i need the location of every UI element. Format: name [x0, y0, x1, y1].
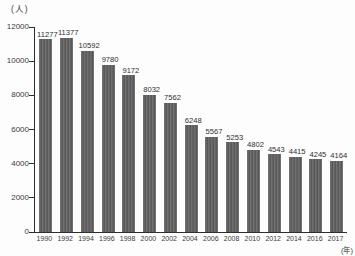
- y-tick-label: 4000: [11, 160, 29, 168]
- x-tick-label: 2010: [242, 235, 263, 242]
- bar-value-label: 7562: [164, 94, 181, 102]
- bar-slot-1998: 9172: [118, 27, 139, 232]
- x-tick-label: 2004: [180, 235, 201, 242]
- bar-value-label: 5567: [206, 128, 223, 136]
- bar-value-label: 4415: [289, 148, 306, 156]
- bar-value-label: 4245: [309, 151, 326, 159]
- bar-value-label: 11377: [58, 29, 79, 37]
- x-tick-label: 2008: [221, 235, 242, 242]
- bar: [39, 39, 52, 232]
- x-tick-label: 2017: [325, 235, 346, 242]
- x-tick-label: 1998: [117, 235, 138, 242]
- y-tick-label: 2000: [11, 194, 29, 202]
- y-tick-label: 6000: [11, 126, 29, 134]
- bar: [330, 161, 343, 232]
- bar: [226, 142, 239, 232]
- bar-value-label: 10592: [79, 42, 100, 50]
- bar: [122, 75, 135, 232]
- y-tick-label: 10000: [7, 57, 29, 65]
- bar: [309, 159, 322, 232]
- bar: [247, 150, 260, 232]
- x-tick-label: 1990: [34, 235, 55, 242]
- bar: [289, 157, 302, 232]
- bar: [185, 125, 198, 232]
- x-tick-label: 1992: [55, 235, 76, 242]
- bars-container: 1127711377105929780917280327562624855675…: [35, 27, 347, 232]
- bar-slot-1992: 11377: [56, 27, 77, 232]
- bar-value-label: 9780: [102, 56, 119, 64]
- bar-value-label: 9172: [122, 67, 139, 75]
- bar-slot-2006: 5567: [202, 27, 223, 232]
- bar-slot-2010: 4802: [243, 27, 264, 232]
- bar: [81, 51, 94, 232]
- x-tick-label: 1994: [76, 235, 97, 242]
- bar: [102, 65, 115, 232]
- bar-slot-2016: 4245: [306, 27, 327, 232]
- bar-value-label: 8032: [143, 86, 160, 94]
- bar-slot-1996: 9780: [98, 27, 119, 232]
- x-axis-labels: 1990199219941996199820002002200420062008…: [34, 235, 346, 242]
- bar-slot-2012: 4543: [264, 27, 285, 232]
- bar-slot-2017: 4164: [326, 27, 347, 232]
- bar: [60, 38, 73, 232]
- bar-value-label: 11277: [37, 31, 58, 39]
- y-tick-label: 12000: [7, 23, 29, 31]
- y-tick-label: 8000: [11, 91, 29, 99]
- x-tick-label: 2014: [284, 235, 305, 242]
- bar: [205, 137, 218, 232]
- bar: [164, 103, 177, 232]
- bar-slot-1994: 10592: [77, 27, 98, 232]
- bar-slot-1990: 11277: [35, 27, 56, 232]
- bar-slot-2008: 5253: [222, 27, 243, 232]
- bar-value-label: 4543: [268, 146, 285, 154]
- x-axis-unit-label: (年): [341, 244, 353, 255]
- bar-value-label: 4802: [247, 141, 264, 149]
- bar-value-label: 6248: [185, 117, 202, 125]
- bar-slot-2000: 8032: [139, 27, 160, 232]
- bar-slot-2014: 4415: [285, 27, 306, 232]
- bar-value-label: 5253: [226, 134, 243, 142]
- plot-area: 020004000600080001000012000 112771137710…: [34, 27, 347, 233]
- bar: [268, 154, 281, 232]
- x-tick-label: 1996: [96, 235, 117, 242]
- x-tick-label: 2006: [200, 235, 221, 242]
- y-axis-unit-label: (人): [11, 2, 29, 14]
- bar-value-label: 4164: [330, 152, 347, 160]
- x-tick-label: 2002: [159, 235, 180, 242]
- bar-slot-2002: 7562: [160, 27, 181, 232]
- bar: [143, 95, 156, 232]
- x-tick-label: 2012: [263, 235, 284, 242]
- bar-slot-2004: 6248: [181, 27, 202, 232]
- x-tick-label: 2000: [138, 235, 159, 242]
- bar-chart: (人) 020004000600080001000012000 11277113…: [0, 0, 355, 256]
- x-tick-label: 2016: [304, 235, 325, 242]
